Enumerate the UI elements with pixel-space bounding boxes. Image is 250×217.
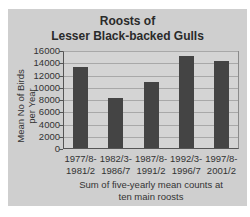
x-tick-label: 1987/8-1991/2: [131, 153, 171, 177]
gridline: [64, 76, 238, 77]
x-tick-label-line: 1986/7: [96, 165, 136, 177]
y-tick-label: 12000: [34, 71, 60, 81]
chart-title-line-1: Roosts of: [8, 14, 247, 29]
x-tick-label-line: 1977/8-: [61, 153, 101, 165]
x-tick-label: 1977/8-1981/2: [61, 153, 101, 177]
x-tick-label-line: 1997/8-: [201, 153, 241, 165]
y-tick-mark: [59, 149, 63, 150]
x-tick-label: 1997/8-2001/2: [201, 153, 241, 177]
x-tick-label-line: 1982/3-: [96, 153, 136, 165]
bar-3: [144, 82, 159, 148]
y-tick-label: 8000: [39, 95, 60, 105]
x-tick-label: 1992/3-1996/7: [166, 153, 206, 177]
y-axis-label-line-1: Mean No of Birds: [15, 61, 26, 151]
y-tick-label: 6000: [39, 107, 60, 117]
y-tick-label: 14000: [34, 58, 60, 68]
x-tick-label-line: 1996/7: [166, 165, 206, 177]
x-axis-label: Sum of five-yearly mean counts at ten ma…: [63, 179, 239, 203]
y-tick-label: 4000: [39, 120, 60, 130]
x-tick-label-line: 2001/2: [201, 165, 241, 177]
x-tick-label-line: 1981/2: [61, 165, 101, 177]
gridline: [64, 63, 238, 64]
x-tick-label-line: 1991/2: [131, 165, 171, 177]
plot-area: [63, 51, 239, 149]
y-tick-label: 2000: [39, 132, 60, 142]
bar-2: [108, 98, 123, 148]
gridline: [64, 51, 238, 52]
bar-1: [73, 67, 88, 148]
y-tick-label: 10000: [34, 83, 60, 93]
x-tick-label-line: 1992/3-: [166, 153, 206, 165]
y-tick-label: 16000: [34, 46, 60, 56]
x-axis-label-line-1: Sum of five-yearly mean counts at: [63, 179, 239, 191]
x-tick-label-line: 1987/8-: [131, 153, 171, 165]
chart-title: Roosts of Lesser Black-backed Gulls: [8, 14, 247, 44]
chart-title-line-2: Lesser Black-backed Gulls: [8, 29, 247, 44]
bar-5: [214, 61, 229, 148]
bar-4: [179, 56, 194, 148]
x-tick-label: 1982/3-1986/7: [96, 153, 136, 177]
x-axis-label-line-2: ten main roosts: [63, 191, 239, 203]
